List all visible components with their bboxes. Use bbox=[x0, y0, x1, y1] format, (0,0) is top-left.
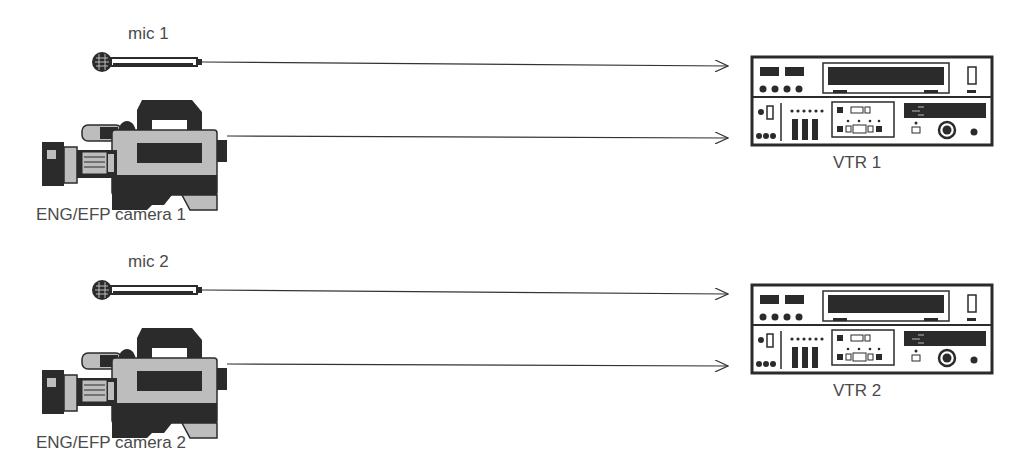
microphone-1-icon bbox=[92, 52, 202, 72]
camera-2-cable bbox=[227, 364, 728, 366]
camera-2-label: ENG/EFP camera 2 bbox=[36, 433, 186, 453]
group-1 bbox=[42, 52, 992, 210]
vtr-1-icon bbox=[752, 57, 992, 145]
mic-2-cable bbox=[202, 290, 728, 294]
mic-1-label: mic 1 bbox=[128, 24, 169, 44]
camera-1-cable bbox=[227, 136, 728, 138]
vtr-2-label: VTR 2 bbox=[833, 381, 881, 401]
camera-2-icon bbox=[42, 328, 227, 438]
camera-1-label: ENG/EFP camera 1 bbox=[36, 205, 186, 225]
mic-2-label: mic 2 bbox=[128, 252, 169, 272]
microphone-2-icon bbox=[92, 280, 202, 300]
mic-1-cable bbox=[202, 62, 728, 66]
vtr-1-label: VTR 1 bbox=[833, 153, 881, 173]
vtr-2-icon bbox=[752, 285, 992, 373]
camera-1-icon bbox=[42, 100, 227, 210]
group-2 bbox=[42, 280, 992, 438]
